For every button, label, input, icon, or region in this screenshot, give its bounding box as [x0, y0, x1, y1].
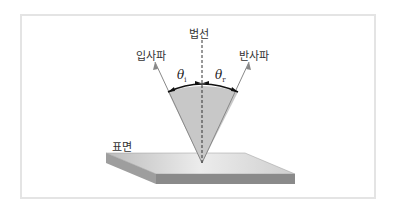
surface-label: 표면 [112, 138, 132, 154]
incident-angle-label: θi [177, 68, 186, 84]
normal-label: 법선 [189, 25, 209, 41]
incident-wave-label: 입사파 [136, 47, 166, 63]
reflected-angle-label: θr [215, 68, 226, 84]
angle-cone [168, 86, 238, 163]
reflected-wave-label: 반사파 [239, 47, 269, 63]
